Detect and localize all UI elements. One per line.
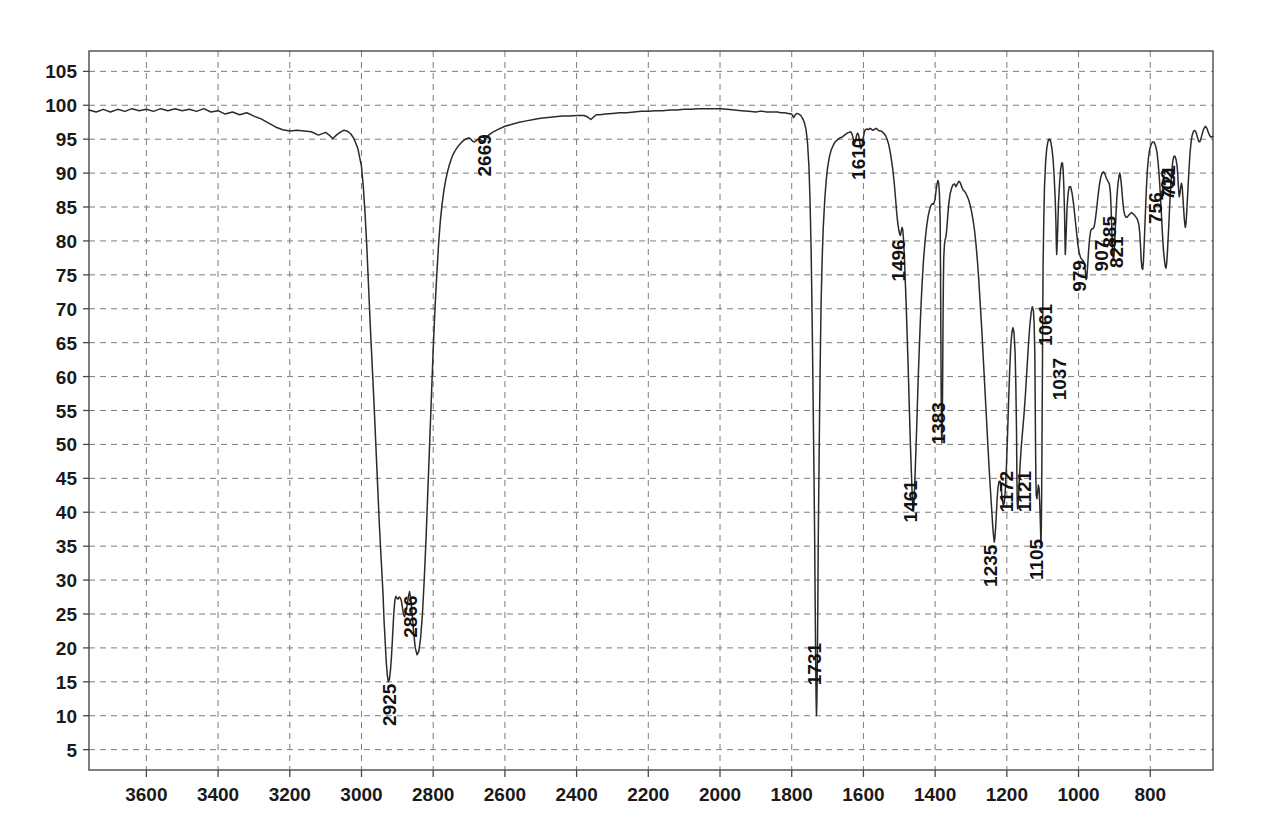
peak-annotation: 1037 — [1049, 358, 1070, 400]
peak-annotation: 979 — [1069, 260, 1090, 292]
y-tick-label: 45 — [56, 468, 78, 489]
y-tick-label: 75 — [56, 265, 78, 286]
y-tick-label: 65 — [56, 333, 78, 354]
peak-label-1037: 1037 — [1049, 358, 1070, 400]
y-tick-label: 105 — [45, 61, 77, 82]
y-tick-label: 80 — [56, 231, 77, 252]
peak-annotation: 1105 — [1026, 538, 1047, 580]
peak-annotation: 1731 — [804, 642, 825, 685]
peak-annotation: 1610 — [848, 138, 869, 180]
x-tick-label: 2400 — [555, 784, 597, 805]
peak-label-721: 721 — [1158, 165, 1179, 197]
y-tick-label: 15 — [56, 672, 78, 693]
x-tick-label: 1600 — [842, 784, 884, 805]
x-tick-label: 800 — [1134, 784, 1166, 805]
y-tick-label: 70 — [56, 299, 77, 320]
y-tick-label: 40 — [56, 502, 77, 523]
x-tick-label: 2200 — [627, 784, 669, 805]
x-tick-label: 1000 — [1057, 784, 1099, 805]
x-tick-label: 3200 — [269, 784, 311, 805]
peak-label-1731: 1731 — [804, 642, 825, 685]
peak-annotation: 1383 — [928, 402, 949, 444]
y-tick-label: 95 — [56, 129, 78, 150]
peak-annotation: 821 — [1106, 236, 1127, 268]
peak-label-2925: 2925 — [379, 683, 400, 726]
peak-annotation: 1121 — [1014, 471, 1035, 513]
x-tick-label: 3600 — [125, 784, 167, 805]
peak-annotation: 721 — [1158, 165, 1179, 197]
y-tick-label: 60 — [56, 367, 77, 388]
y-tick-label: 10 — [56, 706, 77, 727]
peak-annotation: 2866 — [400, 595, 421, 637]
x-tick-label: 2600 — [484, 784, 526, 805]
figure-background — [0, 0, 1270, 835]
peak-annotation: 1235 — [980, 544, 1001, 587]
y-tick-label: 85 — [56, 197, 78, 218]
x-axis-tick-labels: 3600340032003000280026002400220020001800… — [125, 784, 1166, 805]
peak-label-1383: 1383 — [928, 402, 949, 444]
x-tick-label: 2000 — [699, 784, 741, 805]
y-tick-label: 50 — [56, 434, 77, 455]
peak-annotation: 1496 — [888, 239, 909, 281]
y-tick-label: 25 — [56, 604, 78, 625]
x-tick-label: 1400 — [914, 784, 956, 805]
y-tick-label: 30 — [56, 570, 77, 591]
y-tick-label: 5 — [66, 740, 77, 761]
x-tick-label: 3000 — [340, 784, 382, 805]
peak-annotation: 2669 — [474, 134, 495, 176]
peak-label-1461: 1461 — [900, 480, 921, 523]
y-tick-label: 35 — [56, 536, 78, 557]
peak-label-821: 821 — [1106, 236, 1127, 268]
spectrum-canvas: 5101520253035404550556065707580859095100… — [0, 0, 1270, 835]
peak-annotation: 2925 — [379, 683, 400, 726]
x-tick-label: 2800 — [412, 784, 454, 805]
peak-annotation: 1061 — [1035, 303, 1056, 346]
y-tick-label: 20 — [56, 638, 77, 659]
peak-label-2669: 2669 — [474, 134, 495, 176]
peak-label-1610: 1610 — [848, 138, 869, 180]
y-tick-label: 100 — [45, 95, 77, 116]
y-tick-label: 55 — [56, 401, 78, 422]
peak-label-1496: 1496 — [888, 239, 909, 281]
x-tick-label: 3400 — [197, 784, 239, 805]
x-tick-label: 1800 — [771, 784, 813, 805]
x-tick-label: 1200 — [986, 784, 1028, 805]
peak-label-1235: 1235 — [980, 544, 1001, 587]
peak-label-979: 979 — [1069, 260, 1090, 292]
peak-label-1105: 1105 — [1026, 538, 1047, 580]
peak-annotation: 1461 — [900, 480, 921, 523]
peak-label-2866: 2866 — [400, 595, 421, 637]
peak-label-1061: 1061 — [1035, 303, 1056, 346]
peak-label-1121: 1121 — [1014, 471, 1035, 513]
ir-spectrum-figure: 5101520253035404550556065707580859095100… — [0, 0, 1270, 835]
y-tick-label: 90 — [56, 163, 77, 184]
